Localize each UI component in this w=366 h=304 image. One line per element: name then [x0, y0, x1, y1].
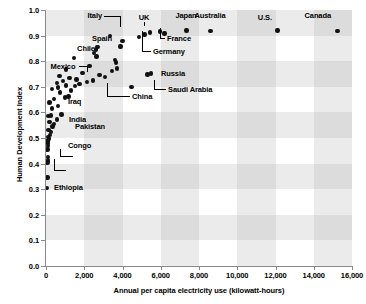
y-axis-tick-label: 0.7: [29, 82, 39, 91]
grid-band-intersection: [84, 164, 122, 190]
grid-band-intersection: [84, 215, 122, 241]
x-axis-tick-label: 14,000: [303, 271, 325, 280]
annotation-label-spain: Spain: [92, 35, 112, 43]
y-axis-tick-label: 1.0: [29, 6, 39, 15]
y-axis-tick: [41, 10, 45, 11]
annotation-leader-line: [160, 28, 161, 38]
annotation-label-australia: Australia: [194, 12, 225, 20]
data-point: [129, 85, 133, 89]
annotation-leader-line: [154, 89, 166, 90]
data-point: [56, 85, 60, 89]
annotation-leader-line: [107, 83, 108, 96]
data-point: [58, 90, 62, 94]
annotation-leader-line: [104, 16, 120, 17]
annotation-label-saudi_arabia: Saudi Arabia: [168, 86, 212, 94]
x-axis-tick-label: 12,000: [264, 271, 286, 280]
annotation-label-pakistan: Pakistan: [75, 123, 105, 131]
annotation-label-chile: Chile: [77, 45, 95, 53]
annotation-leader-line: [79, 66, 87, 67]
y-axis-tick-label: 0.8: [29, 57, 39, 66]
data-point: [67, 76, 71, 80]
data-point: [49, 113, 53, 117]
y-axis-tick-labels: 0.00.10.20.30.40.50.60.70.80.91.0: [0, 0, 39, 304]
grid-band-intersection: [237, 61, 275, 87]
annotation-label-canada: Canada: [305, 12, 332, 20]
data-point: [184, 28, 188, 32]
y-axis-tick-label: 0.1: [29, 236, 39, 245]
annotation-label-russia: Russia: [161, 70, 185, 78]
y-axis-tick-label: 0.2: [29, 210, 39, 219]
y-axis-tick: [41, 240, 45, 241]
y-axis-tick-label: 0.5: [29, 134, 39, 143]
data-point: [208, 29, 212, 33]
data-point: [335, 29, 339, 33]
grid-band-intersection: [314, 164, 352, 190]
x-axis-tick: [84, 266, 85, 270]
x-axis-title: Annual per capita electricity use (kilow…: [46, 286, 352, 295]
data-point: [94, 54, 98, 58]
annotation-label-us: U.S.: [258, 14, 272, 22]
grid-band-intersection: [314, 112, 352, 138]
annotation-leader-line: [54, 170, 66, 171]
annotation-leader-line: [107, 96, 130, 97]
y-axis-tick: [41, 164, 45, 165]
x-axis-tick-label: 10,000: [226, 271, 248, 280]
data-point: [46, 175, 50, 179]
x-axis-tick: [199, 266, 200, 270]
annotation-leader-line: [154, 80, 155, 89]
data-point: [115, 66, 119, 70]
data-point: [50, 106, 54, 110]
y-axis-tick: [41, 138, 45, 139]
data-point: [57, 74, 61, 78]
y-axis-line: [45, 10, 46, 267]
data-point: [149, 71, 153, 75]
x-axis-tick-label: 4,000: [113, 271, 131, 280]
annotation-label-france: France: [167, 35, 191, 43]
x-axis-tick-label: 8,000: [190, 271, 208, 280]
x-axis-tick-label: 2,000: [75, 271, 93, 280]
annotation-label-ethiopia: Ethiopia: [54, 184, 83, 192]
data-point: [87, 64, 91, 68]
x-axis-tick: [123, 266, 124, 270]
annotation-label-iraq: Iraq: [68, 98, 81, 106]
data-point: [47, 100, 51, 104]
grid-band-intersection: [237, 164, 275, 190]
x-axis-tick-label: 6,000: [152, 271, 170, 280]
x-axis-tick: [237, 266, 238, 270]
data-point: [55, 117, 59, 121]
x-axis-tick-label: 0: [44, 271, 48, 280]
chart-figure: Human Development Index 0.00.10.20.30.40…: [0, 0, 366, 304]
data-point: [275, 28, 279, 32]
annotation-leader-line: [120, 16, 121, 27]
data-point: [55, 81, 59, 85]
annotation-leader-line: [60, 149, 61, 156]
y-axis-tick-label: 0.4: [29, 159, 39, 168]
y-axis-tick: [41, 189, 45, 190]
data-point: [80, 71, 84, 75]
grid-band-intersection: [161, 215, 199, 241]
annotation-leader-line: [60, 156, 73, 157]
plot-area: ItalyUKJapanAustraliaU.S.CanadaFranceGer…: [46, 10, 352, 266]
y-axis-tick: [41, 36, 45, 37]
annotation-leader-line: [54, 159, 55, 170]
grid-band-intersection: [161, 112, 199, 138]
data-point: [64, 83, 68, 87]
annotation-leader-line: [142, 31, 143, 51]
y-axis-tick: [41, 87, 45, 88]
data-point: [77, 82, 81, 86]
annotation-label-germany: Germany: [153, 48, 185, 56]
x-axis-tick: [46, 266, 47, 270]
annotation-label-china: China: [132, 93, 152, 101]
annotation-label-mexico: Mexico: [51, 63, 76, 71]
annotation-label-italy: Italy: [87, 12, 102, 20]
data-point: [118, 44, 122, 48]
y-axis-tick-label: 0.3: [29, 185, 39, 194]
data-point: [59, 112, 63, 116]
y-axis-tick-label: 0.9: [29, 31, 39, 40]
data-point: [91, 78, 95, 82]
y-axis-tick: [41, 215, 45, 216]
x-axis-tick: [161, 266, 162, 270]
annotation-label-uk: UK: [139, 14, 150, 22]
x-axis-tick: [314, 266, 315, 270]
data-point: [74, 77, 78, 81]
